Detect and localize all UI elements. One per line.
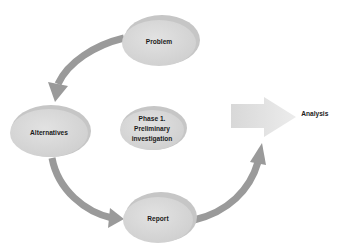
phase-label-line-1: Phase 1. [126,114,179,124]
arrow-alternatives-to-report [52,158,124,228]
phase-label-line-3: investigation [126,134,179,144]
node-problem-label: Problem [133,37,186,47]
node-alternatives-label: Alternatives [18,128,80,138]
analysis-label: Analysis [301,109,333,119]
node-phase-1-label: Phase 1. Preliminary investigation [122,114,182,144]
phase-label-line-2: Preliminary [126,124,179,134]
arrow-problem-to-alternatives [48,38,124,102]
big-arrow-icon [231,97,296,137]
arrow-report-to-analysis [194,143,266,220]
node-report-label: Report [132,214,185,224]
